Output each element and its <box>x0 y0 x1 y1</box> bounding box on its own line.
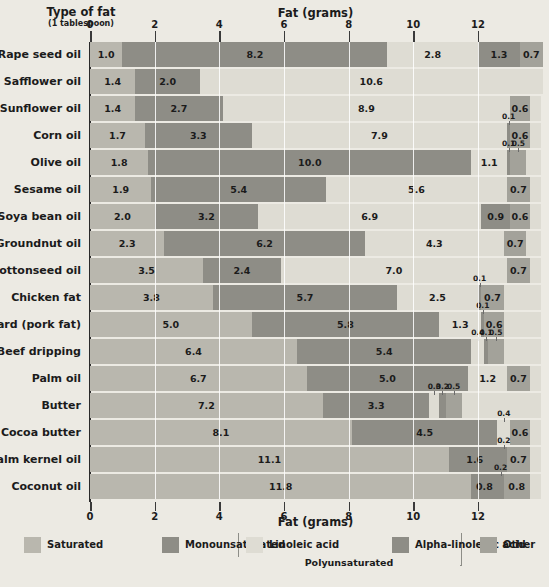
x-ticklabel-top-2: 2 <box>140 19 170 30</box>
x-tick-top-0 <box>90 31 92 42</box>
chart-row: Palm kernel oil11.11.60.20.7 <box>90 447 541 472</box>
bar-segment-linoleic-acid[interactable]: 0.3 <box>429 393 439 418</box>
bar-segment-monounsaturated[interactable]: 2.7 <box>135 96 222 121</box>
bar-segment-other[interactable]: 0.5 <box>510 150 526 175</box>
bar-segment-saturated[interactable]: 1.8 <box>90 150 148 175</box>
bar-segment-linoleic-acid[interactable]: 5.6 <box>326 177 507 202</box>
legend-swatch-icon <box>480 537 497 553</box>
row-label: Palm oil <box>0 366 81 391</box>
bar-segment-value: 8.1 <box>90 420 352 445</box>
bar-segment-value: 0.7 <box>504 231 527 256</box>
bar-segment-value: 0.8 <box>471 474 497 499</box>
bar-segment-monounsaturated[interactable]: 3.2 <box>155 204 258 229</box>
bar-segment-value: 0.5 <box>483 328 509 338</box>
x-tick-bot-8 <box>349 502 351 511</box>
bar-segment-linoleic-acid[interactable]: 6.9 <box>258 204 481 229</box>
bar-segment-linoleic-acid[interactable]: 10.6 <box>200 69 543 94</box>
bar-segment-monounsaturated[interactable]: 5.8 <box>252 312 440 337</box>
bar-segment-monounsaturated[interactable]: 10.0 <box>148 150 471 175</box>
value-axis-title-top: Fat (grams) <box>90 6 541 20</box>
bar-segment-value: 5.4 <box>297 339 472 364</box>
bar-segment-other[interactable]: 0.5 <box>446 393 462 418</box>
bar-segment-alpha-linolenic-acid[interactable]: 0.9 <box>481 204 510 229</box>
chart-row: Groundnut oil2.36.24.30.7 <box>90 231 541 256</box>
bar-segment-value: 2.3 <box>90 231 164 256</box>
bar-segment-linoleic-acid[interactable]: 1.1 <box>471 150 507 175</box>
row-label: Soya bean oil <box>0 204 81 229</box>
bar-segment-value: 6.7 <box>90 366 307 391</box>
x-tick-bot-12 <box>478 502 480 511</box>
bar-segment-monounsaturated[interactable]: 5.7 <box>213 285 397 310</box>
chart-row: Corn oil1.73.37.90.10.6 <box>90 123 541 148</box>
bar-segment-value: 6.2 <box>164 231 364 256</box>
bar-segment-saturated[interactable]: 1.0 <box>90 42 122 67</box>
chart-row: Olive oil1.810.01.10.10.5 <box>90 150 541 175</box>
bar-segment-monounsaturated[interactable]: 0.8 <box>471 474 497 499</box>
bar-segment-monounsaturated[interactable]: 3.3 <box>145 123 252 148</box>
bar-segment-value: 2.8 <box>387 42 478 67</box>
bar-segment-saturated[interactable]: 2.0 <box>90 204 155 229</box>
bar-segment-value: 8.9 <box>223 96 511 121</box>
bar-segment-monounsaturated[interactable]: 5.4 <box>151 177 326 202</box>
bar-segment-linoleic-acid[interactable]: 2.8 <box>387 42 478 67</box>
x-ticklabel-bot-10: 10 <box>398 511 428 522</box>
bar-segment-monounsaturated[interactable]: 2.0 <box>135 69 200 94</box>
bar-segment-other[interactable]: 0.7 <box>507 366 530 391</box>
legend-swatch-icon <box>392 537 409 553</box>
bar-segment-linoleic-acid[interactable]: 7.9 <box>252 123 507 148</box>
bar-segment-other[interactable]: 0.5 <box>488 339 504 364</box>
bar-segment-value: 5.8 <box>252 312 440 337</box>
bar-segment-other[interactable]: 0.7 <box>504 231 527 256</box>
bar-segment-value: 0.6 <box>510 204 529 229</box>
x-tick-bot-6 <box>284 502 286 511</box>
bar-segment-other[interactable]: 0.6 <box>510 204 529 229</box>
bar-segment-monounsaturated[interactable]: 5.4 <box>297 339 472 364</box>
bar-segment-other[interactable]: 0.7 <box>507 258 530 283</box>
bar-segment-saturated[interactable]: 1.4 <box>90 69 135 94</box>
bar-segment-monounsaturated[interactable]: 6.2 <box>164 231 364 256</box>
legend-swatch-icon <box>162 537 179 553</box>
bar-segment-value: 0.5 <box>441 382 467 392</box>
bar-segment-saturated[interactable]: 1.7 <box>90 123 145 148</box>
bar-segment-monounsaturated[interactable]: 4.5 <box>352 420 497 445</box>
row-label: Cottonseed oil <box>0 258 81 283</box>
bar-segment-linoleic-acid[interactable]: 1.2 <box>468 366 507 391</box>
bar-segment-other[interactable]: 0.7 <box>507 177 530 202</box>
bar-segment-other[interactable]: 0.7 <box>520 42 543 67</box>
bar-segment-saturated[interactable]: 2.3 <box>90 231 164 256</box>
bar-segment-value: 2.0 <box>135 69 200 94</box>
row-label: Lard (pork fat) <box>0 312 81 337</box>
bar-segment-linoleic-acid[interactable]: 8.9 <box>223 96 511 121</box>
x-tick-top-4 <box>219 31 221 42</box>
bar-segment-other[interactable]: 0.8 <box>504 474 530 499</box>
bar-segment-linoleic-acid[interactable]: 4.3 <box>365 231 504 256</box>
bar-segment-monounsaturated[interactable]: 2.4 <box>203 258 281 283</box>
bar-segment-value: 1.9 <box>90 177 151 202</box>
bar-segment-saturated[interactable]: 6.4 <box>90 339 297 364</box>
x-tick-top-10 <box>413 31 415 42</box>
bar-segment-saturated[interactable]: 5.0 <box>90 312 252 337</box>
bar-segment-value: 3.8 <box>90 285 213 310</box>
bar-segment-saturated[interactable]: 7.2 <box>90 393 323 418</box>
x-ticklabel-bot-12: 12 <box>463 511 493 522</box>
bar-segment-saturated[interactable]: 8.1 <box>90 420 352 445</box>
bar-segment-saturated[interactable]: 1.4 <box>90 96 135 121</box>
row-label: Corn oil <box>0 123 81 148</box>
bar-segment-linoleic-acid[interactable]: 2.5 <box>397 285 478 310</box>
row-label: Coconut oil <box>0 474 81 499</box>
bar-segment-saturated[interactable]: 6.7 <box>90 366 307 391</box>
plot-area: Rape seed oil1.08.22.81.30.7Safflower oi… <box>90 42 541 501</box>
bar-segment-value: 0.7 <box>507 258 530 283</box>
bar-segment-saturated[interactable]: 11.1 <box>90 447 449 472</box>
bar-segment-alpha-linolenic-acid[interactable]: 1.3 <box>478 42 520 67</box>
bar-segment-value: 5.7 <box>213 285 397 310</box>
bar-segment-saturated[interactable]: 3.5 <box>90 258 203 283</box>
row-label: Butter <box>0 393 81 418</box>
bar-segment-saturated[interactable]: 1.9 <box>90 177 151 202</box>
bar-segment-value: 1.2 <box>468 366 507 391</box>
chart-row: Safflower oil1.42.010.6 <box>90 69 541 94</box>
bar-segment-saturated[interactable]: 3.8 <box>90 285 213 310</box>
x-tick-bot-2 <box>155 502 157 511</box>
legend-label: Other <box>503 537 535 553</box>
bar-segment-value: 7.9 <box>252 123 507 148</box>
